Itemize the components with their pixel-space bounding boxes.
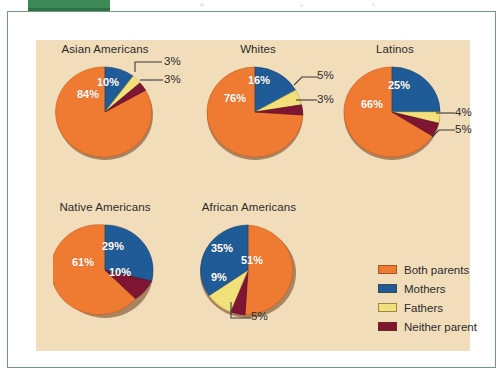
- slice-label-african-both-parents: 51%: [241, 254, 263, 266]
- pie-title-whites: Whites: [178, 43, 338, 55]
- slice-label-african-mothers: 35%: [211, 242, 233, 254]
- legend-item-neither-parent: Neither parent: [378, 317, 477, 336]
- legend-swatch-both-parents: [378, 265, 397, 274]
- legend-swatch-mothers: [378, 284, 397, 293]
- pie-title-asian-americans: Asian Americans: [25, 43, 185, 55]
- callout-label-latinos-fathers: 4%: [455, 106, 472, 118]
- scan-artifact: [300, 4, 303, 7]
- slice-label-asian-both-parents: 84%: [77, 88, 99, 100]
- pie-title-latinos: Latinos: [315, 43, 475, 55]
- leader-line-asian-neither: [140, 73, 166, 83]
- legend: Both parents Mothers Fathers Neither par…: [378, 260, 477, 336]
- slice-label-whites-both-parents: 76%: [224, 92, 246, 104]
- pie-graphic-latinos: [340, 59, 444, 163]
- chart-panel: Asian Americans 84% 10% 3% 3%: [36, 40, 470, 351]
- legend-swatch-fathers: [378, 303, 397, 312]
- legend-label-mothers: Mothers: [404, 283, 446, 295]
- slice-label-native-mothers: 29%: [102, 240, 124, 252]
- top-strip: [0, 0, 503, 11]
- callout-label-asian-fathers: 3%: [164, 55, 181, 67]
- legend-label-neither-parent: Neither parent: [404, 321, 477, 333]
- slice-label-asian-mothers: 10%: [97, 76, 119, 88]
- scan-artifact: [200, 3, 204, 7]
- legend-item-fathers: Fathers: [378, 298, 477, 317]
- scan-artifact: [372, 3, 375, 6]
- slice-label-native-neither: 10%: [109, 266, 131, 278]
- figure-frame: Asian Americans 84% 10% 3% 3%: [7, 11, 496, 368]
- legend-label-fathers: Fathers: [404, 302, 443, 314]
- callout-label-asian-neither: 3%: [164, 73, 181, 85]
- legend-label-both-parents: Both parents: [404, 264, 469, 276]
- slice-label-native-both-parents: 61%: [72, 256, 94, 268]
- legend-swatch-neither-parent: [378, 322, 397, 331]
- leader-line-asian-fathers: [132, 58, 166, 74]
- slice-label-whites-mothers: 16%: [248, 74, 270, 86]
- slice-label-african-fathers: 9%: [211, 271, 227, 283]
- pie-title-african-americans: African Americans: [169, 201, 329, 213]
- slice-label-latinos-mothers: 25%: [388, 79, 410, 91]
- callout-label-latinos-neither: 5%: [455, 123, 472, 135]
- legend-item-mothers: Mothers: [378, 279, 477, 298]
- pie-graphic-native-americans: [53, 217, 157, 321]
- callout-label-african-neither: 5%: [251, 310, 268, 322]
- legend-item-both-parents: Both parents: [378, 260, 477, 279]
- callout-label-whites-neither: 3%: [317, 93, 334, 105]
- callout-label-whites-fathers: 5%: [317, 69, 334, 81]
- slice-label-latinos-both-parents: 66%: [361, 98, 383, 110]
- pie-title-native-americans: Native Americans: [25, 201, 185, 213]
